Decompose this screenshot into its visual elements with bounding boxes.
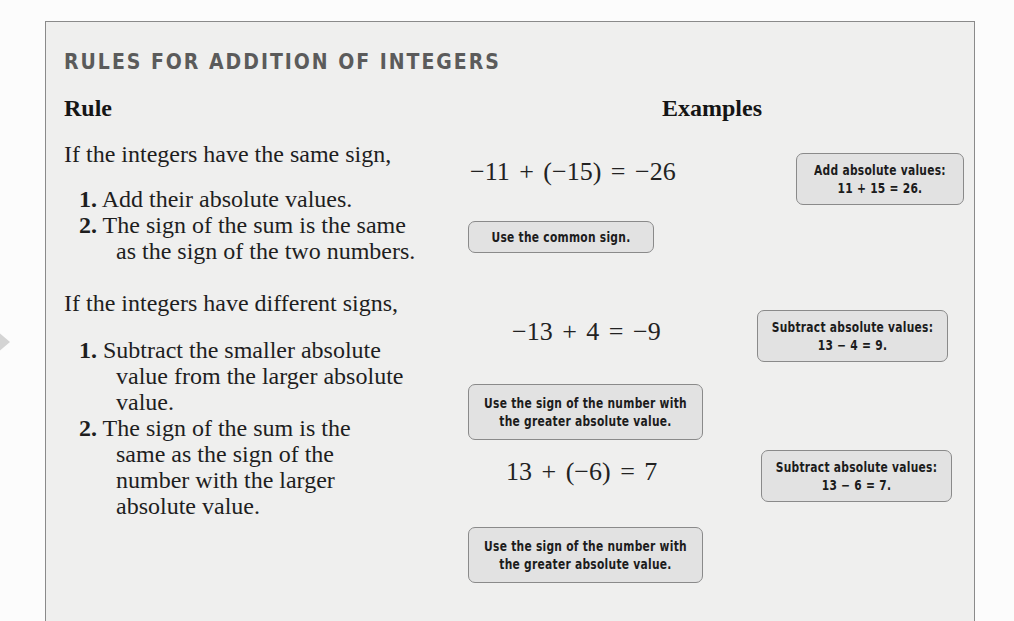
callout-line: 13 − 6 = 7. [773, 476, 939, 494]
callout-use-common-sign: Use the common sign. [468, 221, 654, 253]
callout-line: the greater absolute value. [483, 412, 688, 430]
step-text: The sign of the sum is the same [103, 212, 406, 238]
box-title: RULES FOR ADDITION OF INTEGERS [64, 50, 501, 74]
step-number: 1. [79, 186, 97, 212]
step-text-continued: absolute value. [116, 493, 260, 519]
callout-use-greater-sign-1: Use the sign of the number with the grea… [468, 384, 703, 440]
step-text-continued: number with the larger [116, 467, 335, 493]
page-turn-arrow-icon [0, 330, 10, 354]
same-sign-step-2: 2. The sign of the sum is the same [79, 212, 406, 238]
same-sign-step-1: 1. Add their absolute values. [79, 186, 352, 212]
step-number: 2. [79, 212, 97, 238]
rules-box: RULES FOR ADDITION OF INTEGERS Rule Exam… [45, 21, 975, 621]
callout-line: 11 + 15 = 26. [807, 179, 953, 197]
step-text-continued: as the sign of the two numbers. [116, 238, 415, 264]
example-equation-1: −11 + (−15) = −26 [470, 157, 676, 187]
callout-line: the greater absolute value. [483, 555, 688, 573]
same-sign-intro: If the integers have the same sign, [64, 141, 391, 167]
callout-add-absolute-values: Add absolute values: 11 + 15 = 26. [796, 153, 964, 205]
step-number: 1. [79, 337, 97, 363]
different-signs-intro: If the integers have different signs, [64, 290, 398, 316]
callout-line: Use the sign of the number with [483, 394, 688, 412]
step-text: The sign of the sum is the [103, 415, 351, 441]
column-header-rule: Rule [64, 95, 112, 122]
callout-line: 13 − 4 = 9. [769, 336, 935, 354]
different-signs-step-2: 2. The sign of the sum is the [79, 415, 351, 441]
callout-use-greater-sign-2: Use the sign of the number with the grea… [468, 527, 703, 583]
callout-line: Add absolute values: [807, 161, 953, 179]
callout-subtract-absolute-values-2: Subtract absolute values: 13 − 6 = 7. [761, 450, 952, 502]
step-text-continued: value from the larger absolute [116, 363, 403, 389]
example-equation-2: −13 + 4 = −9 [512, 317, 661, 347]
step-text-continued: same as the sign of the [116, 441, 334, 467]
different-signs-step-1: 1. Subtract the smaller absolute [79, 337, 381, 363]
callout-subtract-absolute-values-1: Subtract absolute values: 13 − 4 = 9. [757, 310, 948, 362]
step-text: Add their absolute values. [102, 186, 353, 212]
step-number: 2. [79, 415, 97, 441]
column-header-examples: Examples [662, 95, 762, 122]
step-text-continued: value. [116, 389, 174, 415]
callout-line: Use the sign of the number with [483, 537, 688, 555]
callout-line: Subtract absolute values: [769, 318, 935, 336]
callout-line: Use the common sign. [480, 228, 642, 246]
step-text: Subtract the smaller absolute [103, 337, 381, 363]
example-equation-3: 13 + (−6) = 7 [506, 457, 657, 487]
callout-line: Subtract absolute values: [773, 458, 939, 476]
